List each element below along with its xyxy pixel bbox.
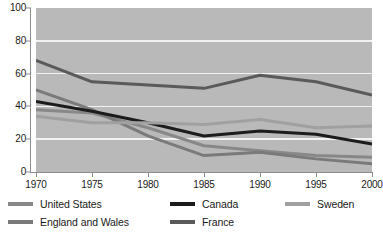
legend-color-swatch [8,202,33,206]
series-line [36,110,372,158]
y-axis-tick-label: 80 [15,36,26,46]
x-axis-tick-label: 1990 [249,179,270,190]
y-axis-tick-label: 60 [15,69,26,79]
y-axis-tick-mark [26,106,31,107]
legend-color-swatch [8,220,33,224]
x-axis-tick-mark [92,172,93,177]
x-axis-tick-label: 1970 [25,179,46,190]
y-axis-tick-label: 40 [15,101,26,111]
x-axis-tick-mark [316,172,317,177]
x-axis-tick-mark [260,172,261,177]
legend-color-swatch [285,202,310,206]
x-axis-tick-mark [204,172,205,177]
x-axis-tick-label: 1985 [193,179,214,190]
series-lines [36,8,372,172]
y-axis-tick-mark [26,139,31,140]
plot-wrapper: 020406080100 197019751980198519901995200… [0,0,382,190]
x-axis-tick-label: 2000 [361,179,382,190]
y-axis-tick-mark [26,40,31,41]
legend-item[interactable]: Sweden [285,198,354,210]
y-axis-line [30,8,31,172]
legend-label: Canada [202,198,238,210]
legend-label: France [202,216,234,228]
x-axis-tick-label: 1980 [137,179,158,190]
x-axis-tick-label: 1975 [81,179,102,190]
x-axis-tick-mark [148,172,149,177]
series-line [36,116,372,127]
x-axis-tick-mark [36,172,37,177]
legend-color-swatch [170,220,195,224]
x-axis-tick-label: 1995 [305,179,326,190]
legend-label: England and Wales [40,216,129,228]
x-axis-tick-mark [372,172,373,177]
legend-item[interactable]: England and Wales [8,216,129,228]
y-axis-tick-mark [26,8,31,9]
legend-item[interactable]: Canada [170,198,238,210]
legend-item[interactable]: United States [8,198,102,210]
legend-item[interactable]: France [170,216,234,228]
legend-label: Sweden [317,198,354,210]
y-axis-tick-label: 20 [15,134,26,144]
chart-legend: United StatesCanadaSwedenEngland and Wal… [8,198,380,234]
legend-label: United States [40,198,102,210]
y-axis-tick-label: 100 [10,3,26,13]
series-line [36,60,372,94]
plot-area [36,8,372,172]
x-axis-line [30,172,372,173]
y-axis-labels: 020406080100 [0,0,30,172]
y-axis-tick-mark [26,73,31,74]
legend-color-swatch [170,202,195,206]
